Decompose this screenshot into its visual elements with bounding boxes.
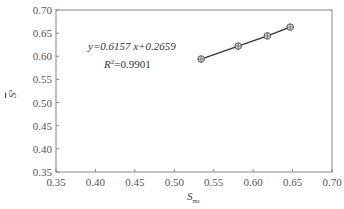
data-point-marker bbox=[264, 33, 271, 40]
y-tick-label: 0.60 bbox=[33, 50, 53, 62]
plot-area bbox=[56, 10, 332, 172]
y-tick-label: 0.45 bbox=[33, 120, 53, 132]
x-tick-label: 0.50 bbox=[165, 176, 185, 188]
y-tick-label: 0.65 bbox=[33, 27, 53, 39]
x-tick-label: 0.55 bbox=[204, 176, 224, 188]
data-point-marker bbox=[287, 24, 294, 31]
x-tick-label: 0.65 bbox=[283, 176, 303, 188]
x-tick-label: 0.60 bbox=[244, 176, 264, 188]
data-point-marker bbox=[198, 56, 205, 63]
x-tick-label: 0.45 bbox=[125, 176, 145, 188]
data-point-marker bbox=[235, 43, 242, 50]
y-tick-label: 0.35 bbox=[33, 166, 53, 178]
y-tick-label: 0.55 bbox=[33, 73, 53, 85]
y-tick-label: 0.70 bbox=[33, 4, 53, 16]
regression-equation: y=0.6157 x+0.2659 bbox=[87, 40, 176, 52]
svg-text:Sa: Sa bbox=[6, 90, 18, 99]
x-tick-label: 0.40 bbox=[86, 176, 106, 188]
x-axis-label: Sms bbox=[187, 190, 200, 204]
y-axis-ticks: 0.350.400.450.500.550.600.650.70 bbox=[33, 4, 59, 178]
r-squared: R2=0.9901 bbox=[103, 58, 151, 70]
x-tick-label: 0.70 bbox=[322, 176, 342, 188]
y-axis-label: Sa bbox=[6, 90, 18, 99]
y-tick-label: 0.40 bbox=[33, 143, 53, 155]
scatter-chart: 0.350.400.450.500.550.600.650.70 0.350.4… bbox=[0, 0, 344, 209]
y-tick-label: 0.50 bbox=[33, 97, 53, 109]
